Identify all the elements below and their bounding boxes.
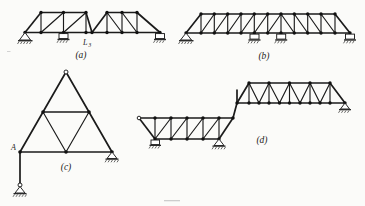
truss-b-joint — [239, 12, 242, 15]
truss-a-end-post-left — [25, 13, 41, 33]
caption-panel-b: (b) — [258, 51, 269, 62]
truss-d-upper-left-end — [237, 83, 249, 103]
truss-a-joint — [39, 11, 42, 14]
truss-b-joint — [266, 31, 269, 34]
truss-d-joint — [201, 116, 204, 119]
truss-a-node-label-L3: L 3 — [82, 38, 92, 48]
truss-b-joint — [319, 31, 322, 34]
truss-b-diagonal-2 — [214, 14, 227, 33]
truss-d-upper-diagonal-5 — [290, 83, 301, 103]
truss-b-joint — [279, 12, 282, 15]
truss-a-support-pin-left — [18, 33, 33, 45]
truss-b-diagonal-10 — [321, 14, 335, 33]
truss-d-joint — [235, 101, 238, 104]
truss-d-step-link — [233, 103, 237, 118]
truss-b-joint — [333, 31, 336, 34]
truss-a-joint — [105, 11, 108, 14]
truss-d-lower-diagonal-1 — [155, 118, 171, 139]
truss-b-joint — [333, 12, 336, 15]
stray-mark — [7, 51, 11, 52]
truss-a-mid-ascend — [92, 13, 107, 33]
truss-c-joint — [41, 110, 45, 114]
truss-d-upper-diagonal-7 — [310, 83, 320, 103]
truss-b-joint — [213, 12, 216, 15]
truss-d-upper-diagonal-3 — [269, 83, 280, 103]
truss-d-upper-diagonal-4 — [280, 83, 290, 103]
truss-b-joint — [319, 12, 322, 15]
truss-b-diagonal-5 — [254, 14, 267, 33]
truss-d-upper-diagonal-2 — [259, 83, 269, 103]
truss-d-joint — [267, 81, 270, 84]
truss-d-joint — [247, 81, 250, 84]
truss-c-support-roller-right — [105, 152, 119, 162]
truss-c-support-pin-bottom — [13, 187, 27, 197]
truss-a-joint — [84, 11, 87, 14]
truss-b-joint — [213, 31, 216, 34]
truss-d-joint — [288, 81, 291, 84]
truss-a-joint — [135, 31, 138, 34]
truss-a-joint — [62, 11, 65, 14]
truss-panel-b: (b) — [179, 12, 357, 62]
truss-a-mid-descend — [86, 13, 92, 33]
truss-b-support-roller-2 — [275, 34, 288, 43]
truss-d-lower-right-end — [219, 118, 233, 139]
truss-b-joint — [199, 12, 202, 15]
node-label-L-sub: 3 — [88, 42, 92, 48]
truss-b-joint — [306, 12, 309, 15]
truss-panel-a: L 3 (a) — [7, 11, 166, 61]
truss-b-joint — [293, 31, 296, 34]
node-label-L-main: L — [82, 38, 88, 47]
truss-d-joint — [267, 101, 270, 104]
truss-d-lower-diagonal-4 — [203, 118, 219, 139]
truss-a-joint — [105, 31, 108, 34]
truss-d-support-roller-right — [339, 103, 352, 113]
truss-b-support-roller-1 — [248, 34, 261, 43]
truss-b-diagonal-6 — [268, 14, 281, 33]
truss-d-joint — [308, 101, 311, 104]
truss-d-joint — [328, 81, 331, 84]
page-bottom-artifact — [164, 200, 180, 201]
truss-d-lower-diagonal-2 — [171, 118, 187, 139]
truss-d-lower-diagonal-3 — [187, 118, 203, 139]
truss-d-upper-diagonal-1 — [249, 83, 259, 103]
truss-panel-d: (d) — [137, 81, 351, 149]
truss-b-joint — [199, 31, 202, 34]
truss-b-joint — [293, 12, 296, 15]
truss-b-joint — [306, 31, 309, 34]
truss-b-joint — [226, 31, 229, 34]
truss-d-upper-diagonal-6 — [300, 83, 310, 103]
truss-c-joint — [64, 150, 68, 154]
truss-b-support-roller-3 — [344, 34, 357, 43]
truss-b-diagonal-1 — [201, 14, 214, 33]
truss-b-joint — [253, 12, 256, 15]
truss-a-diagonal-1 — [41, 13, 64, 33]
truss-b-joint — [266, 12, 269, 15]
truss-d-joint — [169, 137, 172, 140]
truss-c-joint-A — [18, 150, 22, 154]
truss-d-joint — [257, 101, 260, 104]
truss-d-joint — [318, 101, 321, 104]
truss-d-joint — [217, 116, 220, 119]
truss-a-diagonal-4 — [122, 13, 137, 33]
truss-b-diagonal-9 — [308, 14, 321, 33]
truss-d-joint — [298, 101, 301, 104]
truss-a-joint — [120, 31, 123, 34]
truss-d-joint — [308, 81, 311, 84]
truss-c-apex-joint — [64, 70, 68, 74]
truss-d-joint — [169, 116, 172, 119]
truss-b-joint — [226, 12, 229, 15]
truss-d-upper-diagonal-8 — [320, 83, 330, 103]
truss-d-joint — [201, 137, 204, 140]
truss-a-diagonal-3 — [107, 13, 122, 33]
truss-d-upper-right-end — [330, 83, 345, 103]
truss-c-inner-right — [66, 112, 89, 152]
truss-a-end-post-right — [137, 13, 160, 33]
truss-d-joint — [185, 137, 188, 140]
truss-panel-c: A (c) — [10, 70, 119, 197]
truss-b-diagonal-8 — [294, 14, 307, 33]
truss-a-joint — [120, 11, 123, 14]
truss-d-joint — [247, 101, 250, 104]
figure-container: L 3 (a) — [0, 0, 365, 206]
caption-panel-c: (c) — [61, 162, 72, 173]
truss-d-joint — [278, 101, 281, 104]
